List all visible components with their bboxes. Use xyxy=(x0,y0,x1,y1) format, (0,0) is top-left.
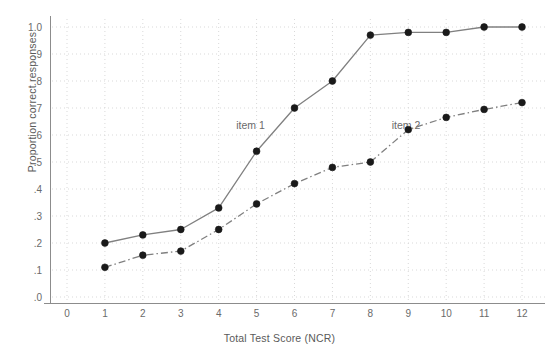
data-point xyxy=(481,106,488,113)
series-line xyxy=(105,103,522,268)
data-point xyxy=(102,264,109,271)
data-point xyxy=(443,114,450,121)
data-point xyxy=(405,126,412,133)
data-point xyxy=(291,105,298,112)
data-point xyxy=(291,180,298,187)
data-point xyxy=(177,226,184,233)
data-point xyxy=(367,159,374,166)
data-point xyxy=(139,252,146,259)
data-point xyxy=(519,24,526,31)
data-point xyxy=(215,226,222,233)
gridlines xyxy=(52,19,545,302)
data-point xyxy=(329,164,336,171)
data-point xyxy=(177,248,184,255)
chart-container: Proportion correct responses Total Test … xyxy=(0,0,559,363)
data-point xyxy=(215,205,222,212)
data-point xyxy=(405,29,412,36)
series-2 xyxy=(102,99,526,270)
data-point xyxy=(253,148,260,155)
data-point xyxy=(481,24,488,31)
data-point xyxy=(443,29,450,36)
data-series xyxy=(102,24,526,271)
data-point xyxy=(329,78,336,85)
data-point xyxy=(139,232,146,239)
data-point xyxy=(253,201,260,208)
plot-area xyxy=(0,0,559,363)
series-line xyxy=(105,27,522,243)
data-point xyxy=(519,99,526,106)
data-point xyxy=(102,240,109,247)
data-point xyxy=(367,32,374,39)
series-1 xyxy=(102,24,526,247)
